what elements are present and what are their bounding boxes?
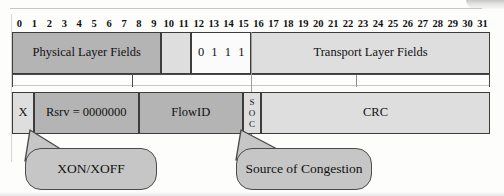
bit-label-12: 12 (191, 16, 206, 32)
bit-label-28: 28 (430, 16, 445, 32)
version-bit-2: 1 (225, 46, 231, 59)
bit-label-3: 3 (57, 16, 72, 32)
bit-label-10: 10 (161, 16, 176, 32)
version-bit-0: 0 (198, 46, 204, 59)
bit-label-15: 15 (236, 16, 251, 32)
scan-artifact-rule (10, 8, 482, 9)
bit-label-27: 27 (415, 16, 430, 32)
bit-label-21: 21 (326, 16, 341, 32)
soc-letter-s: S (249, 97, 254, 108)
bit-label-20: 20 (311, 16, 326, 32)
bit-label-16: 16 (251, 16, 266, 32)
separator-tick-bit8 (132, 75, 133, 87)
field-gap-bits-10-11 (161, 32, 191, 74)
bit-label-18: 18 (281, 16, 296, 32)
bit-label-0: 0 (12, 16, 27, 32)
field-version-bits: 0 1 1 1 (191, 32, 251, 74)
separator-tick-right (489, 75, 490, 87)
bit-label-14: 14 (221, 16, 236, 32)
bit-label-22: 22 (341, 16, 356, 32)
bit-label-17: 17 (266, 16, 281, 32)
bit-label-29: 29 (445, 16, 460, 32)
bit-label-13: 13 (206, 16, 221, 32)
bit-ruler: 0 1 2 3 4 5 6 7 8 9 10 11 12 13 14 15 16… (12, 16, 490, 32)
field-physical-layer-fields: Physical Layer Fields (12, 32, 161, 74)
bit-label-9: 9 (146, 16, 161, 32)
callout-text-xon-xoff: XON/XOFF (57, 161, 125, 177)
bit-label-23: 23 (356, 16, 371, 32)
field-transport-layer-fields: Transport Layer Fields (251, 32, 490, 74)
bit-label-2: 2 (42, 16, 57, 32)
diagram-canvas: 0 1 2 3 4 5 6 7 8 9 10 11 12 13 14 15 16… (0, 0, 504, 196)
version-bit-3: 1 (238, 46, 244, 59)
separator-tick-bit23 (356, 75, 357, 87)
bit-label-7: 7 (117, 16, 132, 32)
bit-label-25: 25 (385, 16, 400, 32)
bit-label-24: 24 (371, 16, 386, 32)
bit-label-8: 8 (132, 16, 147, 32)
bit-label-11: 11 (176, 16, 191, 32)
soc-letter-o: O (249, 108, 256, 119)
callout-bubble-source-of-congestion: Source of Congestion (236, 148, 372, 190)
version-bit-1: 1 (211, 46, 217, 59)
bit-label-4: 4 (72, 16, 87, 32)
bit-label-30: 30 (460, 16, 475, 32)
page-bottom-shading (0, 192, 504, 196)
separator-tick-left (12, 75, 13, 87)
callout-text-source-of-congestion: Source of Congestion (246, 161, 363, 177)
field-flow-id: FlowID (139, 92, 244, 134)
bit-label-1: 1 (27, 16, 42, 32)
bit-label-19: 19 (296, 16, 311, 32)
bit-label-31: 31 (475, 16, 490, 32)
bit-label-6: 6 (102, 16, 117, 32)
bit-label-5: 5 (87, 16, 102, 32)
bit-label-26: 26 (400, 16, 415, 32)
callout-bubble-xon-xoff: XON/XOFF (25, 148, 157, 190)
